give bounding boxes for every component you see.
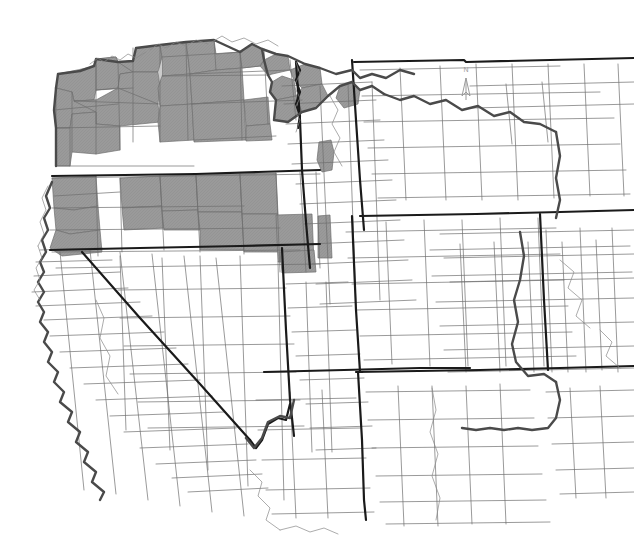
shaded-county [280, 250, 316, 273]
shaded-county [318, 215, 332, 258]
shaded-county [52, 176, 98, 210]
shaded-county [192, 100, 246, 142]
map-container: N [0, 0, 634, 550]
shaded-county [240, 173, 278, 214]
shaded-county [162, 210, 200, 230]
western-us-county-map: N [0, 0, 634, 550]
north-arrow-label: N [463, 66, 468, 73]
shaded-county [198, 212, 244, 250]
shaded-county [246, 124, 272, 141]
shaded-county [120, 176, 162, 208]
shaded-county [160, 175, 198, 211]
shaded-county [122, 206, 164, 230]
shaded-county [158, 104, 194, 142]
